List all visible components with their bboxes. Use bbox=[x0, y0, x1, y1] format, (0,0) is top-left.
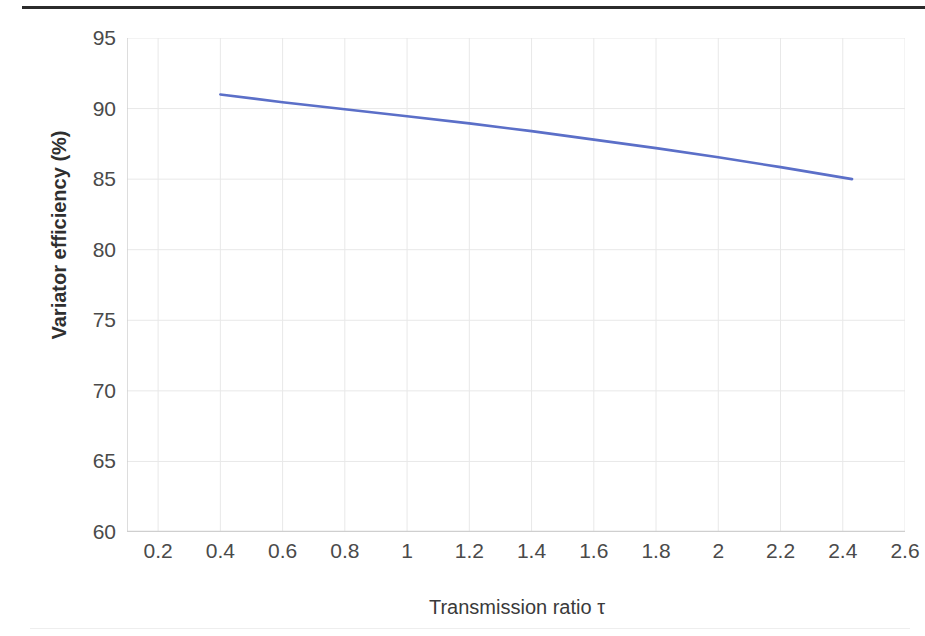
figure-root: © Dana Rexroth Variator efficiency (%) 6… bbox=[0, 0, 925, 636]
plot-area bbox=[127, 38, 905, 532]
x-tick-label: 1.6 bbox=[579, 540, 608, 561]
y-tick-label: 65 bbox=[56, 450, 116, 471]
top-divider-rule bbox=[22, 6, 925, 9]
x-tick-label: 2.6 bbox=[890, 540, 919, 561]
chart-canvas bbox=[127, 38, 905, 532]
x-tick-label: 2.2 bbox=[766, 540, 795, 561]
x-tick-label: 1.4 bbox=[517, 540, 546, 561]
y-tick-label: 60 bbox=[56, 521, 116, 542]
x-tick-label: 1 bbox=[401, 540, 413, 561]
x-tick-label: 0.8 bbox=[330, 540, 359, 561]
series-line bbox=[220, 94, 852, 179]
y-tick-label: 80 bbox=[56, 239, 116, 260]
y-tick-label: 90 bbox=[56, 98, 116, 119]
bottom-divider-rule bbox=[30, 628, 910, 629]
x-tick-label: 2 bbox=[712, 540, 724, 561]
x-axis-tick-labels: 0.20.40.60.811.21.41.61.822.22.42.6 bbox=[0, 540, 925, 574]
y-tick-label: 70 bbox=[56, 380, 116, 401]
x-tick-label: 0.6 bbox=[268, 540, 297, 561]
x-tick-label: 2.4 bbox=[828, 540, 857, 561]
y-tick-label: 75 bbox=[56, 309, 116, 330]
x-tick-label: 1.2 bbox=[455, 540, 484, 561]
x-tick-label: 0.4 bbox=[206, 540, 235, 561]
y-tick-label: 95 bbox=[56, 27, 116, 48]
x-tick-label: 1.8 bbox=[641, 540, 670, 561]
x-tick-label: 0.2 bbox=[144, 540, 173, 561]
y-tick-label: 85 bbox=[56, 168, 116, 189]
x-axis-title: Transmission ratio τ bbox=[127, 596, 907, 619]
